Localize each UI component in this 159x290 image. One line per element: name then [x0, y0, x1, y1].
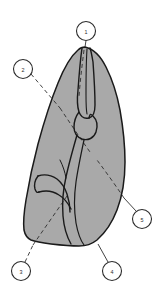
callout-circle-4[interactable] [103, 262, 122, 281]
callout-circle-2[interactable] [14, 60, 33, 79]
leader-line-4 [98, 244, 108, 262]
leader-line-1 [85, 41, 86, 48]
callout-5[interactable]: 5 [133, 210, 152, 229]
figure-container: 1 2 3 4 5 [0, 0, 159, 290]
callout-3[interactable]: 3 [12, 262, 31, 281]
callout-circle-5[interactable] [133, 210, 152, 229]
anatomical-diagram: 1 2 3 4 5 [0, 0, 159, 290]
callout-circle-3[interactable] [12, 262, 31, 281]
leader-line-3 [25, 245, 33, 262]
leader-line-5 [124, 198, 136, 211]
callout-4[interactable]: 4 [103, 262, 122, 281]
callout-1[interactable]: 1 [77, 22, 96, 41]
callout-2[interactable]: 2 [14, 60, 33, 79]
callout-circle-1[interactable] [77, 22, 96, 41]
